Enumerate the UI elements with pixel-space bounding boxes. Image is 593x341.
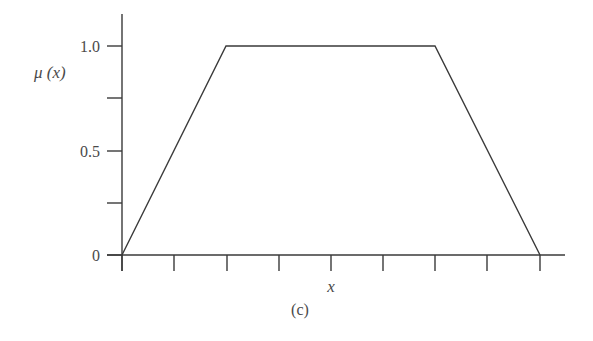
y-axis-label: μ (x)	[33, 63, 66, 82]
membership-function-chart: 1.0 0.5 0 μ (x) x (c)	[0, 0, 593, 341]
y-tick-label-0: 0	[92, 247, 100, 264]
membership-curve	[122, 46, 540, 255]
y-tick-label-05: 0.5	[80, 143, 100, 160]
y-tick-label-1: 1.0	[80, 38, 100, 55]
x-axis-label: x	[326, 277, 335, 296]
figure-caption: (c)	[291, 301, 309, 319]
x-ticks	[122, 255, 540, 271]
